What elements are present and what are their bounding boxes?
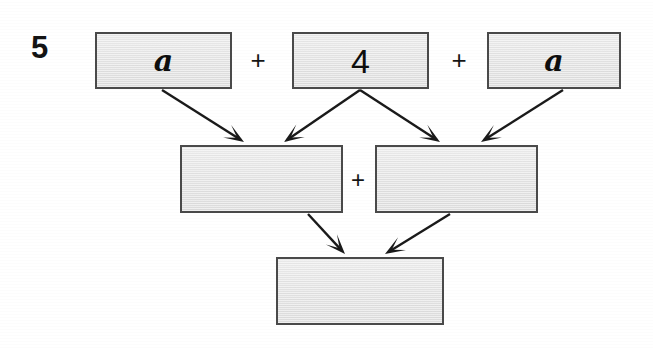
arrow-middle-left-to-bottom bbox=[308, 214, 345, 254]
diagram-box-middle-right[interactable] bbox=[375, 145, 538, 213]
diagram-box-middle-left[interactable] bbox=[180, 145, 343, 213]
diagram-box-top-left[interactable]: a bbox=[95, 32, 232, 89]
diagram-box-top-right[interactable]: a bbox=[487, 32, 621, 89]
question-number: 5 bbox=[31, 32, 48, 63]
arrow-middle-right-to-bottom bbox=[385, 214, 450, 254]
diagram-box-bottom[interactable] bbox=[276, 257, 444, 325]
operator-plus-middle-1: + bbox=[344, 168, 372, 192]
arrow-top-middle-to-middle-left bbox=[284, 90, 360, 142]
diagram-box-label-top-middle: 4 bbox=[351, 44, 370, 78]
diagram-box-label-top-right: a bbox=[544, 46, 563, 76]
worksheet-page: 5 a4a+++ bbox=[0, 0, 653, 348]
diagram-box-label-top-left: a bbox=[154, 46, 173, 76]
operator-plus-top-1: + bbox=[244, 47, 272, 73]
arrow-top-right-to-middle-right bbox=[481, 90, 563, 142]
arrow-top-middle-to-middle-right bbox=[360, 90, 440, 142]
diagram-box-top-middle[interactable]: 4 bbox=[292, 32, 429, 89]
arrow-top-left-to-middle-left bbox=[162, 90, 244, 142]
operator-plus-top-2: + bbox=[445, 47, 473, 73]
